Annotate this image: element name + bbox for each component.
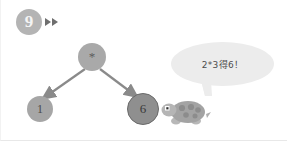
tree-node-right[interactable]: 6	[127, 93, 159, 125]
turtle-mascot	[160, 98, 212, 126]
tree-node-root[interactable]: *	[78, 43, 106, 71]
edge-root-to-right	[100, 69, 132, 93]
lesson-canvas: 9 * 1 6 2*3得6！	[0, 0, 287, 141]
tree-node-left[interactable]: 1	[27, 96, 53, 122]
speech-bubble-text: 2*3得6！	[202, 58, 243, 71]
speech-bubble: 2*3得6！	[171, 42, 274, 86]
edge-root-to-left	[48, 69, 85, 95]
